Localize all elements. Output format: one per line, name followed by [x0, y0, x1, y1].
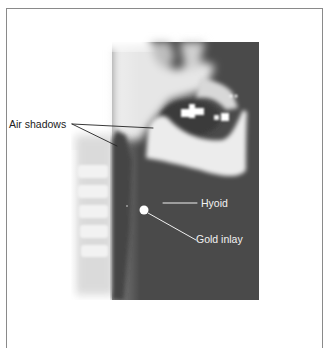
gold-inlay-label: Gold inlay — [196, 233, 243, 245]
hyoid-label: Hyoid — [201, 197, 228, 209]
air-shadows-label: Air shadows — [9, 118, 66, 130]
cervical-spine — [75, 135, 115, 295]
gold-inlay-marker — [140, 206, 149, 215]
